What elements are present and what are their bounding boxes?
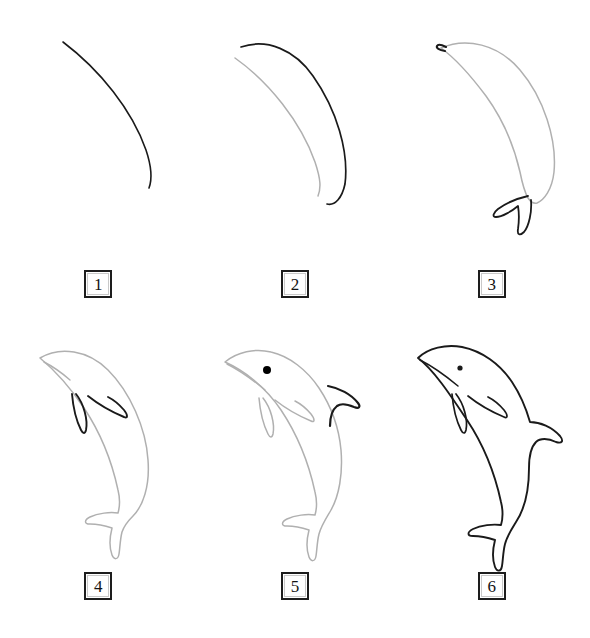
mouth-line-stroke	[44, 362, 70, 380]
step-number-box-3: 3	[478, 270, 506, 298]
step-number-box-1: 1	[84, 270, 112, 298]
step-number-box-6: 6	[478, 572, 506, 600]
previous-back-curve-stroke	[235, 58, 320, 196]
step-number-box-4: 4	[84, 572, 112, 600]
step-1-drawing	[0, 0, 196, 270]
step-4-drawing	[0, 310, 196, 572]
step-panel-3: 3	[393, 0, 590, 310]
far-flipper-stroke	[468, 396, 507, 418]
step-number-label: 5	[291, 578, 300, 595]
step-panel-4: 4	[0, 310, 197, 620]
dolphin-body-outline-stroke	[418, 346, 562, 571]
body-outline-previous-stroke	[40, 351, 148, 558]
step-number-inner-2: 2	[283, 272, 307, 296]
outer-body-curve-stroke	[241, 44, 346, 204]
step-number-label: 6	[487, 578, 496, 595]
tail-fluke-stroke	[493, 196, 531, 234]
step-panel-2: 2	[197, 0, 394, 310]
step-3-drawing	[394, 0, 590, 270]
step-5-drawing	[197, 310, 393, 572]
drawing-tutorial-sheet: 1 2 3	[0, 0, 590, 638]
step-number-label: 3	[487, 276, 496, 293]
step-number-box-2: 2	[281, 270, 309, 298]
step-number-label: 4	[94, 578, 103, 595]
body-outline-previous-stroke	[441, 43, 554, 203]
step-number-inner-5: 5	[283, 574, 307, 598]
step-panel-5: 5	[197, 310, 394, 620]
step-2-drawing	[197, 0, 393, 270]
step-panel-1: 1	[0, 0, 197, 310]
mouth-line-previous-stroke	[227, 364, 265, 390]
near-flipper-stroke	[72, 394, 87, 433]
step-number-box-5: 5	[281, 572, 309, 600]
step-number-inner-4: 4	[86, 574, 110, 598]
far-flipper-stroke	[88, 396, 127, 418]
step-6-drawing	[394, 310, 590, 572]
step-number-inner-6: 6	[480, 574, 504, 598]
near-flipper-previous-stroke	[259, 398, 274, 437]
step-number-inner-1: 1	[86, 272, 110, 296]
eye-dot	[457, 365, 462, 370]
step-number-inner-3: 3	[480, 272, 504, 296]
dorsal-fin-stroke	[328, 386, 359, 426]
back-curve-stroke	[63, 42, 151, 188]
step-panel-6: 6	[393, 310, 590, 620]
step-number-label: 2	[291, 276, 300, 293]
body-outline-previous-stroke	[225, 350, 342, 560]
eye-dot	[263, 366, 271, 374]
step-number-label: 1	[94, 276, 103, 293]
mouth-line-stroke	[420, 360, 458, 386]
